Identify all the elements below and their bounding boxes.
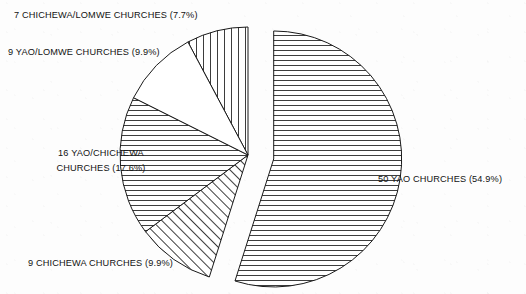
slice-label-yao-chichewa-line1: 16 YAO/CHICHEWA [58,148,144,158]
slice-label-chichewa-lomwe: 7 CHICHEWA/LOMWE CHURCHES (7.7%) [14,8,198,23]
pie-chart-figure: 7 CHICHEWA/LOMWE CHURCHES (7.7%) 9 YAO/L… [0,0,526,294]
slice-label-chichewa: 9 CHICHEWA CHURCHES (9.9%) [28,256,173,271]
slice-label-yao-chichewa: 16 YAO/CHICHEWACHURCHES (17.6%) [36,146,166,176]
slice-label-yao-lomwe: 9 YAO/LOMWE CHURCHES (9.9%) [8,45,160,60]
pie-slice-yao [235,31,402,287]
slice-label-yao: 50 YAO CHURCHES (54.9%) [378,172,502,187]
slice-label-yao-chichewa-line2: CHURCHES (17.6%) [56,163,145,173]
